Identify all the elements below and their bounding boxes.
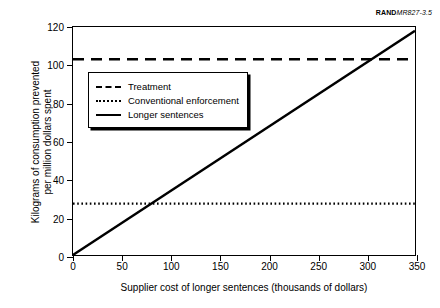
source-credit: RANDMR827-3.5 (376, 8, 432, 18)
y-axis-tick-label: 100 (47, 60, 64, 71)
y-axis-label: Kilograms of consumption prevented per m… (30, 22, 54, 262)
plot-area: 020406080100120050100150200250300350 (72, 26, 416, 256)
series-line-longer-sentences (73, 31, 415, 255)
series-svg (73, 27, 415, 255)
legend-item-longer-sentences: Longer sentences (96, 107, 239, 121)
y-axis-tick-label: 80 (53, 98, 64, 109)
x-axis-tick-label: 200 (261, 261, 278, 272)
legend-item-treatment: Treatment (96, 79, 239, 93)
x-axis-tick-label: 250 (310, 261, 327, 272)
solid-line-icon (96, 108, 121, 120)
y-axis-tick (67, 27, 73, 28)
y-axis-tick-label: 0 (58, 252, 64, 263)
y-axis-tick (67, 180, 73, 181)
x-axis-label: Supplier cost of longer sentences (thous… (72, 282, 416, 293)
legend-item-conventional-enforcement: Conventional enforcement (96, 93, 239, 107)
legend-label-longer-sentences: Longer sentences (128, 109, 204, 120)
y-axis-tick-label: 40 (53, 175, 64, 186)
y-axis-tick-label: 120 (47, 22, 64, 33)
x-axis-tick-label: 100 (163, 261, 180, 272)
data-series-layer (73, 27, 415, 255)
x-axis-tick-label: 300 (360, 261, 377, 272)
x-axis-tick-label: 0 (70, 261, 76, 272)
chart-figure: RANDMR827-3.5 Kilograms of consumption p… (0, 0, 440, 308)
x-axis-tick-label: 150 (212, 261, 229, 272)
y-axis-tick (67, 142, 73, 143)
y-axis-tick-label: 20 (53, 213, 64, 224)
chart-legend: Treatment Conventional enforcement Longe… (88, 72, 248, 128)
credit-brand: RAND (376, 9, 397, 16)
x-axis-tick-label: 50 (117, 261, 128, 272)
legend-label-treatment: Treatment (128, 81, 171, 92)
y-axis-tick (67, 104, 73, 105)
credit-document: MR827-3.5 (396, 9, 432, 16)
y-axis-label-line1: Kilograms of consumption prevented (30, 61, 41, 223)
legend-label-conventional-enforcement: Conventional enforcement (128, 95, 239, 106)
y-axis-tick (67, 65, 73, 66)
dashed-line-icon (96, 80, 121, 92)
y-axis-tick-label: 60 (53, 137, 64, 148)
x-axis-tick-label: 350 (409, 261, 426, 272)
y-axis-tick (67, 219, 73, 220)
dotted-line-icon (96, 94, 121, 106)
